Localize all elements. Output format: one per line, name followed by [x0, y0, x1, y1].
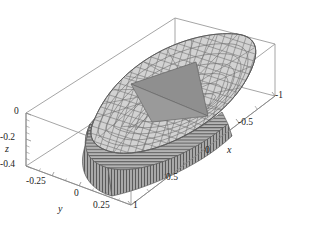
surface-plot — [0, 0, 300, 240]
z-axis-ticks — [26, 113, 31, 168]
y-tick-0: 0 — [74, 188, 79, 198]
y-axis-label: y — [58, 203, 62, 214]
x-tick-minus-0-5: -0.5 — [238, 117, 253, 127]
x-axis-label: x — [227, 144, 231, 155]
y-tick-0-25: 0.25 — [93, 200, 110, 210]
figure-container: 0 -0.2 -0.4 -0.25 0 0.25 1 0.5 0 -0.5 -1… — [0, 0, 326, 240]
z-tick-0: 0 — [14, 106, 19, 116]
x-tick-0-5: 0.5 — [166, 172, 178, 182]
z-axis-label: z — [5, 143, 9, 154]
x-tick-0: 0 — [205, 145, 210, 155]
z-tick-minus-0-2: -0.2 — [0, 132, 15, 142]
z-tick-minus-0-4: -0.4 — [0, 159, 15, 169]
x-tick-1: 1 — [133, 200, 138, 210]
x-tick-minus-1: -1 — [275, 90, 283, 100]
y-tick-minus-0-25: -0.25 — [26, 176, 46, 186]
